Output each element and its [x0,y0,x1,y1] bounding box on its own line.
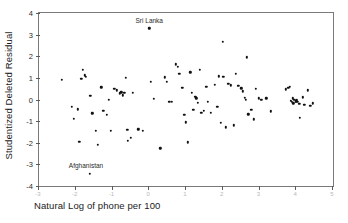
y-axis-tick-label: 0 [29,95,33,104]
data-point [302,96,304,98]
data-point [150,80,152,82]
data-point [199,68,201,70]
y-axis-tick [36,13,40,14]
data-point [76,108,78,110]
data-point [61,79,63,81]
y-axis-tick [36,56,40,57]
data-point [125,77,127,79]
data-point [78,140,80,142]
data-point [127,140,129,142]
x-axis-tick [112,186,113,190]
data-point [216,106,218,108]
data-point [218,75,220,77]
data-point [71,105,73,107]
x-axis-tick [295,186,296,190]
y-axis-tick-label: -2 [26,138,33,147]
data-point [242,90,244,92]
data-point [303,104,305,106]
data-point [260,98,262,100]
data-point [213,84,215,86]
data-point [307,89,309,91]
y-axis-tick [36,143,40,144]
x-axis-tick [38,186,39,190]
x-axis-tick [259,186,260,190]
y-axis-title-text: Studentized Deleted Residual [4,31,15,159]
data-point [89,173,91,175]
data-point [240,87,242,89]
y-axis-tick [36,100,40,101]
data-point [102,110,104,112]
data-point [253,118,255,120]
data-point [148,27,150,29]
data-point [222,41,224,43]
data-point [137,128,139,130]
data-point [210,112,212,114]
plot-area: 43210-1-2-3-4Sri LankaAfghanistan [38,12,334,186]
data-point [195,97,197,99]
data-point [269,110,271,112]
data-point [224,126,226,128]
y-axis-tick-label: 1 [29,73,33,82]
data-point [171,100,173,102]
data-point [183,113,185,115]
data-point [116,89,118,91]
data-point [245,56,247,58]
y-axis-title: Studentized Deleted Residual [0,0,18,190]
data-point [265,97,267,99]
data-point [85,76,87,78]
data-point [177,66,179,68]
x-axis-tick [222,186,223,190]
y-axis-tick-label: 4 [29,9,33,18]
y-axis-tick [36,164,40,165]
data-point [220,122,222,124]
data-point [82,69,84,71]
x-axis-tick [148,186,149,190]
y-axis-tick-label: 3 [29,30,33,39]
data-point [233,124,235,126]
data-point [181,86,183,88]
x-axis-title: Natural Log of phone per 100 [34,200,160,211]
data-point [91,112,93,114]
data-point [106,114,108,116]
data-point [250,109,252,111]
data-point [202,110,204,112]
data-point [166,81,168,83]
data-point [187,141,189,143]
data-point [298,103,300,105]
data-point [234,72,236,74]
y-axis-tick-label: -4 [26,182,33,191]
point-annotation-label: Afghanistan [69,162,103,169]
x-axis-tick-label: -1 [109,191,114,197]
y-axis-tick-label: 2 [29,52,33,61]
x-axis-tick-label: 5 [330,191,333,197]
data-point [126,129,128,131]
data-point [141,130,143,132]
x-axis-tick-label: 3 [257,191,260,197]
data-point [159,147,161,149]
y-axis-tick-label: -1 [26,117,33,126]
data-point [207,100,209,102]
x-axis-tick-label: 1 [183,191,186,197]
x-axis-tick-label: 4 [294,191,297,197]
data-point [130,137,132,139]
data-point [222,76,224,78]
data-point [230,84,232,86]
x-axis-tick-label: 2 [220,191,223,197]
data-point [109,130,111,132]
point-annotation-label: Sri Lanka [136,17,163,24]
data-point [132,92,134,94]
data-point [299,117,301,119]
x-axis-tick [185,186,186,190]
data-point [80,77,82,79]
x-axis-tick [75,186,76,190]
data-point [192,109,194,111]
data-point [255,87,257,89]
x-axis-tick-label: 0 [147,191,150,197]
y-axis-tick-label: -3 [26,160,33,169]
data-point [108,99,110,101]
data-point [122,94,124,96]
data-point [95,130,97,132]
data-point [163,76,165,78]
y-axis-tick [36,121,40,122]
x-axis-tick [332,186,333,190]
